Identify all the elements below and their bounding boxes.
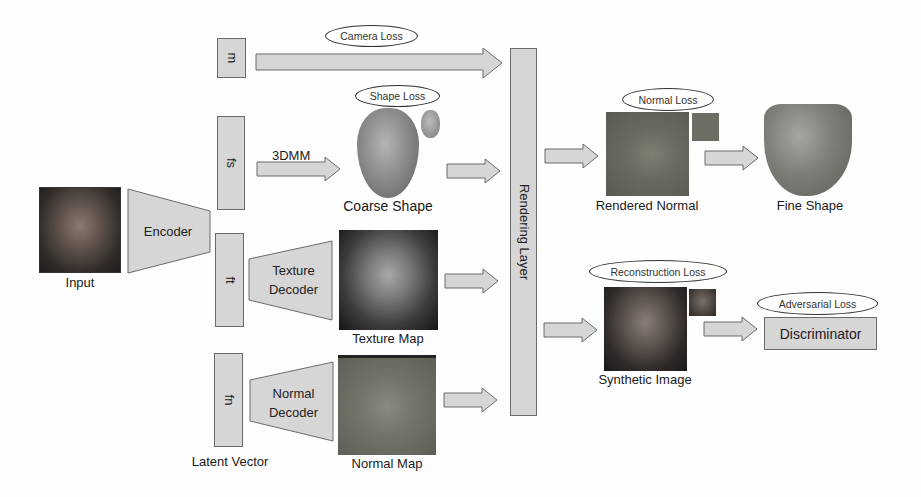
normal-loss: Normal Loss bbox=[622, 88, 714, 111]
normal-to-fine-arrow bbox=[704, 145, 760, 171]
encoder-label: Encoder bbox=[127, 222, 209, 241]
fine-shape-image bbox=[764, 104, 852, 196]
normal-arrow bbox=[443, 387, 499, 413]
input-label: Input bbox=[39, 275, 121, 290]
normal-decoder-label: Normal Decoder bbox=[256, 384, 331, 422]
rendered-normal-label: Rendered Normal bbox=[592, 198, 702, 213]
coarse-shape-image bbox=[357, 108, 419, 198]
synthetic-image-label: Synthetic Image bbox=[590, 372, 700, 387]
coarse-shape-label: Coarse Shape bbox=[338, 198, 438, 214]
rendered-normal-thumbnail bbox=[692, 113, 719, 141]
rendering-layer: Rendering Layer bbox=[510, 48, 537, 416]
texture-map-image bbox=[339, 230, 438, 330]
texture-decoder-label: Texture Decoder bbox=[256, 261, 331, 299]
rendered-normal-image bbox=[606, 112, 689, 196]
coarse-shape-thumbnail bbox=[421, 110, 440, 138]
adversarial-loss: Adversarial Loss bbox=[757, 292, 878, 315]
synthetic-to-discriminator-arrow bbox=[703, 316, 759, 342]
latent-vector-caption: Latent Vector bbox=[180, 454, 280, 469]
camera-loss: Camera Loss bbox=[325, 25, 418, 47]
rendering-to-normal-arrow bbox=[544, 143, 600, 169]
latent-vector-fs: fs bbox=[217, 116, 245, 210]
latent-vector-fn: fn bbox=[214, 353, 243, 447]
3dmm-arrow bbox=[256, 156, 342, 182]
synthetic-image bbox=[604, 287, 687, 371]
shape-loss: Shape Loss bbox=[355, 85, 440, 107]
normal-map-image bbox=[338, 355, 436, 455]
normal-map-label: Normal Map bbox=[337, 456, 437, 471]
texture-map-label: Texture Map bbox=[338, 331, 438, 346]
rendering-to-synthetic-arrow bbox=[543, 317, 599, 343]
latent-vector-ft: ft bbox=[215, 233, 244, 327]
synthetic-image-thumbnail bbox=[689, 289, 716, 316]
fine-shape-label: Fine Shape bbox=[760, 198, 860, 213]
texture-arrow bbox=[444, 268, 500, 294]
camera-arrow bbox=[255, 47, 505, 79]
discriminator-block: Discriminator bbox=[764, 317, 877, 350]
reconstruction-loss: Reconstruction Loss bbox=[589, 260, 727, 283]
coarse-shape-arrow bbox=[446, 158, 502, 184]
input-image bbox=[39, 187, 121, 273]
latent-vector-m: m bbox=[217, 38, 246, 78]
